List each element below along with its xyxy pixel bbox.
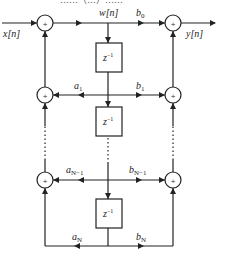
coef-b1: b1 — [136, 80, 145, 93]
coef-aN-1: aN−1 — [66, 164, 84, 177]
state-label: w[n] — [99, 7, 119, 18]
arrow-icon — [105, 37, 111, 43]
cropped-header-text: ……（…）…… — [60, 0, 123, 5]
adder-right-0: + — [165, 15, 181, 31]
arrow-icon — [105, 101, 111, 107]
arrow-icon — [170, 31, 176, 37]
coef-aN: aN — [72, 231, 82, 244]
adder-right-n-1: + — [165, 172, 181, 188]
adder-left-1: + — [37, 87, 53, 103]
arrow-icon — [136, 177, 142, 183]
arrow-icon — [78, 177, 84, 183]
coef-bN-1: bN−1 — [129, 164, 147, 177]
output-label: y[n] — [185, 28, 203, 39]
arrow-icon — [42, 31, 48, 37]
arrow-icon — [53, 177, 59, 183]
arrow-icon — [159, 20, 165, 26]
arrow-icon — [210, 20, 216, 26]
adder-left-n-1: + — [37, 172, 53, 188]
plus-icon: + — [171, 177, 176, 186]
plus-icon: + — [43, 177, 48, 186]
arrow-icon — [42, 103, 48, 109]
plus-icon: + — [171, 20, 176, 29]
adder-left-0: + — [37, 15, 53, 31]
iir-filter-diagram: ……（…）…… x[n] y[n] w[n] b0 z−1 z−1 z−1 a1… — [0, 0, 225, 256]
arrow-icon — [138, 20, 144, 26]
plus-icon: + — [43, 20, 48, 29]
arrow-icon — [105, 193, 111, 199]
coef-bN: bN — [136, 231, 146, 244]
arrow-icon — [159, 92, 165, 98]
arrow-icon — [53, 92, 59, 98]
arrow-icon — [31, 20, 37, 26]
adder-right-1: + — [165, 87, 181, 103]
arrow-icon — [42, 188, 48, 194]
coef-b0: b0 — [136, 7, 145, 20]
arrow-icon — [159, 177, 165, 183]
arrow-icon — [170, 103, 176, 109]
input-label: x[n] — [2, 28, 20, 39]
coef-a1: a1 — [74, 80, 83, 93]
plus-icon: + — [43, 92, 48, 101]
arrow-icon — [76, 20, 82, 26]
arrow-icon — [170, 188, 176, 194]
plus-icon: + — [171, 92, 176, 101]
